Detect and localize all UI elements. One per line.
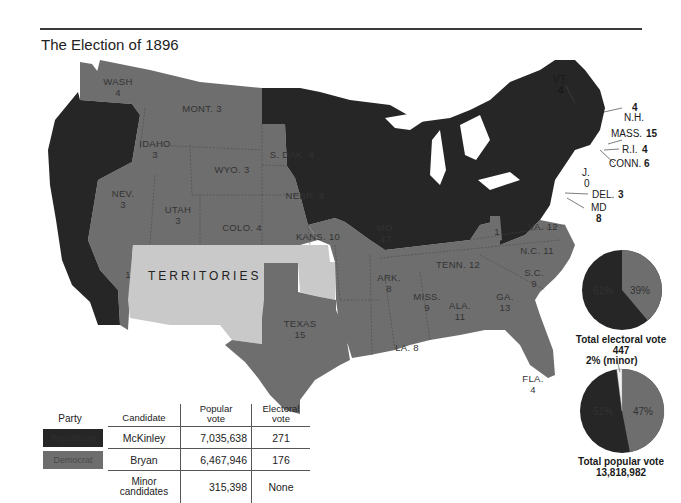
svg-text:3: 3 (152, 149, 158, 160)
label-sc: S.C. (524, 267, 544, 278)
label-wyo: WYO. 3 (214, 164, 249, 175)
label-nc: N.C. 11 (520, 245, 554, 256)
svg-text:61%: 61% (593, 285, 613, 296)
svg-text:11: 11 (455, 311, 465, 322)
table-row: Minorcandidates 315,398 None (108, 471, 310, 503)
table-row: Bryan 6,467,946 176 (108, 449, 310, 471)
svg-text:CONN.: CONN. (609, 158, 641, 169)
territories-label: TERRITORIES (148, 269, 261, 283)
svg-text:4: 4 (558, 85, 564, 96)
label-kans: KANS. 10 (296, 231, 340, 242)
label-ala: ALA. (449, 300, 471, 311)
svg-text:N.H.: N.H. (624, 112, 644, 123)
label-cal-split: 1 (125, 269, 131, 280)
label-nev: NEV. (112, 188, 135, 199)
label-colo: COLO. 4 (222, 222, 262, 233)
label-tenn: TENN. 12 (436, 259, 480, 270)
svg-text:DEL.: DEL. (592, 189, 614, 200)
svg-text:51%: 51% (593, 406, 613, 417)
svg-text:MD: MD (591, 202, 607, 213)
svg-text:0: 0 (584, 178, 590, 189)
legend-header: Party (40, 413, 100, 424)
svg-text:13: 13 (499, 302, 510, 313)
svg-text:8: 8 (596, 213, 602, 224)
svg-text:J.: J. (582, 167, 590, 178)
col-popular-vote: Popularvote (181, 404, 252, 427)
legend-swatch-republican: Republican (43, 429, 103, 447)
label-la: LA. 8 (395, 342, 419, 353)
table-row: McKinley 7,035,638 271 (108, 427, 310, 449)
col-electoral-vote: Electoralvote (252, 404, 311, 427)
svg-text:15: 15 (294, 329, 305, 340)
svg-text:MASS.: MASS. (611, 128, 642, 139)
svg-text:47%: 47% (633, 406, 653, 417)
label-ga: GA. (496, 291, 513, 302)
electoral-vote-pie: 39% 61% (582, 250, 662, 330)
svg-text:R.I.: R.I. (622, 144, 638, 155)
label-wash: WASH (103, 76, 132, 87)
label-idaho: IDAHO (139, 138, 171, 149)
svg-text:39%: 39% (630, 285, 650, 296)
svg-text:8: 8 (386, 283, 392, 294)
label-ark: ARK. (377, 272, 400, 283)
label-ky-split: 1 (494, 226, 500, 237)
legend-swatch-democrat: Democrat (43, 451, 103, 469)
popular-pie-caption: Total popular vote 13,818,982 (561, 456, 681, 478)
label-miss: MISS. (413, 291, 440, 302)
label-nebr: NEBR. 8 (285, 190, 324, 201)
electoral-pie-caption: Total electoral vote 447 (561, 334, 681, 356)
svg-text:VT.: VT. (553, 74, 567, 85)
label-fla: FLA. (522, 373, 543, 384)
svg-text:17: 17 (380, 233, 391, 244)
svg-text:4: 4 (115, 87, 121, 98)
svg-text:6: 6 (644, 158, 650, 169)
results-table: Candidate Popularvote Electoralvote McKi… (108, 404, 310, 503)
svg-text:3: 3 (618, 189, 624, 200)
col-candidate: Candidate (108, 404, 181, 427)
label-mont: MONT. 3 (182, 103, 222, 114)
label-utah: UTAH (165, 204, 191, 215)
svg-text:15: 15 (646, 128, 658, 139)
svg-text:3: 3 (175, 215, 181, 226)
svg-text:4: 4 (642, 144, 648, 155)
minor-share-label: 2% (minor) (586, 355, 638, 366)
label-mo: MO. (377, 222, 396, 233)
label-texas: TEXAS (284, 318, 317, 329)
label-sdak: S. DAK. 4 (270, 149, 314, 160)
label-va: VA. 12 (528, 221, 558, 232)
svg-text:9: 9 (424, 302, 430, 313)
svg-text:4: 4 (530, 384, 536, 395)
svg-text:9: 9 (531, 278, 537, 289)
svg-text:3: 3 (120, 199, 126, 210)
popular-vote-pie: 47% 51% (580, 360, 664, 453)
